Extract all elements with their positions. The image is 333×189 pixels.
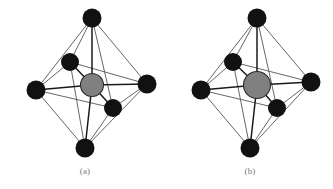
caption-panel-a: (a) xyxy=(65,166,105,176)
vertex-top-sphere xyxy=(248,9,267,28)
vertex-right-sphere xyxy=(302,73,321,92)
vertex-top-sphere xyxy=(83,9,102,28)
vertex-back-upper-sphere xyxy=(61,53,79,71)
vertex-left-sphere xyxy=(27,81,46,100)
polyhedron-edge xyxy=(92,18,147,84)
vertex-bottom-sphere xyxy=(241,139,260,158)
vertex-front-lower-sphere xyxy=(104,99,122,117)
octahedra-illustration xyxy=(0,0,333,189)
central-atom-sphere xyxy=(81,74,104,97)
caption-panel-b: (b) xyxy=(230,166,270,176)
polyhedron-edge xyxy=(257,18,311,82)
polyhedron-edge xyxy=(36,90,85,148)
octahedron-panel-a xyxy=(27,9,157,158)
vertex-bottom-sphere xyxy=(76,139,95,158)
vertex-left-sphere xyxy=(192,81,211,100)
vertex-back-upper-sphere xyxy=(224,53,242,71)
vertex-front-lower-sphere xyxy=(268,99,286,117)
figure-stage: (a) (b) xyxy=(0,0,333,189)
central-atom-sphere xyxy=(244,72,271,99)
polyhedron-edge xyxy=(201,90,250,148)
octahedron-panel-b xyxy=(192,9,321,158)
vertex-right-sphere xyxy=(138,75,157,94)
polyhedron-edge xyxy=(36,90,113,108)
